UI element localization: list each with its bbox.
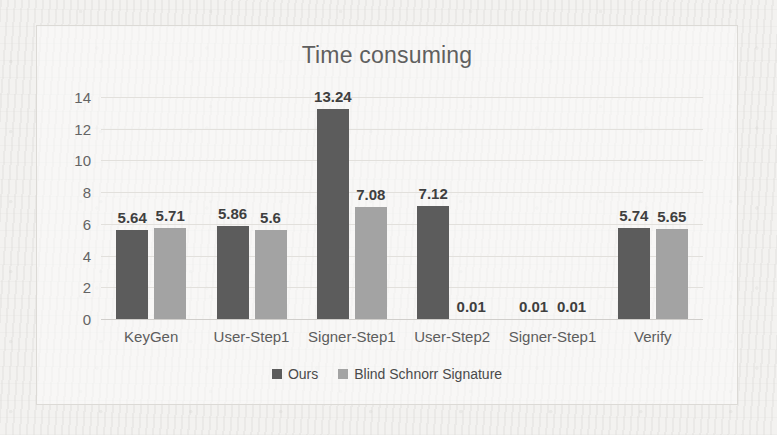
chart-title: Time consuming — [37, 42, 737, 69]
bar — [656, 229, 688, 319]
bar-value-label: 0.01 — [457, 298, 486, 315]
bar-value-label: 7.08 — [356, 186, 385, 203]
gridline — [101, 287, 703, 288]
bar-value-label: 5.86 — [218, 205, 247, 222]
legend-swatch-icon — [272, 369, 282, 379]
y-axis-tick-label: 8 — [83, 184, 91, 201]
bar — [417, 206, 449, 319]
y-axis-tick-label: 4 — [83, 247, 91, 264]
bar — [217, 226, 249, 319]
bar — [317, 109, 349, 319]
bar — [618, 228, 650, 319]
bar-value-label: 0.01 — [519, 298, 548, 315]
y-axis-tick-label: 14 — [74, 89, 91, 106]
bar-value-label: 5.64 — [118, 209, 147, 226]
legend-item[interactable]: Ours — [272, 366, 318, 382]
plot-area: 02468101214 5.645.715.865.613.247.087.12… — [101, 97, 703, 319]
chart-legend: OursBlind Schnorr Signature — [37, 366, 737, 382]
y-axis-tick-label: 2 — [83, 279, 91, 296]
bar — [355, 207, 387, 319]
x-axis-category-label: KeyGen — [124, 328, 178, 345]
legend-item[interactable]: Blind Schnorr Signature — [338, 366, 502, 382]
legend-label: Blind Schnorr Signature — [354, 366, 502, 382]
legend-label: Ours — [288, 366, 318, 382]
y-axis-tick-label: 0 — [83, 311, 91, 328]
bar-value-label: 7.12 — [419, 185, 448, 202]
gridline — [101, 224, 703, 225]
x-axis-category-label: Verify — [634, 328, 672, 345]
x-axis-category-label: Signer-Step1 — [509, 328, 597, 345]
gridline — [101, 97, 703, 98]
gridline — [101, 192, 703, 193]
x-axis-category-label: User-Step2 — [414, 328, 490, 345]
y-axis-tick-label: 10 — [74, 152, 91, 169]
bar-value-label: 13.24 — [314, 88, 352, 105]
chart-container: Time consuming 02468101214 5.645.715.865… — [36, 25, 738, 405]
legend-swatch-icon — [338, 369, 348, 379]
bar — [255, 230, 287, 319]
bar-value-label: 5.74 — [619, 207, 648, 224]
gridline — [101, 256, 703, 257]
gridline — [101, 319, 703, 320]
bar-value-label: 5.71 — [156, 207, 185, 224]
gridline — [101, 160, 703, 161]
bar — [154, 228, 186, 319]
y-axis-tick-label: 6 — [83, 215, 91, 232]
x-axis-category-label: User-Step1 — [214, 328, 290, 345]
gridline — [101, 129, 703, 130]
x-axis-category-label: Signer-Step1 — [308, 328, 396, 345]
bar-value-label: 5.6 — [260, 209, 281, 226]
bar-value-label: 0.01 — [557, 298, 586, 315]
bar-value-label: 5.65 — [657, 208, 686, 225]
bar — [116, 230, 148, 319]
y-axis-tick-label: 12 — [74, 120, 91, 137]
